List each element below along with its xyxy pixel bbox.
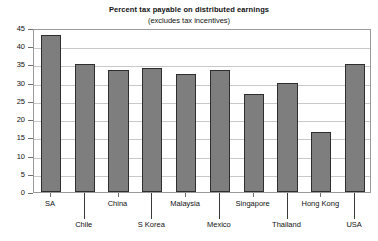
label-leader-line xyxy=(84,193,85,219)
y-axis: 454035302520151050 xyxy=(0,29,33,193)
page-title: Percent tax payable on distributed earni… xyxy=(0,4,378,15)
bar-chile xyxy=(75,64,95,192)
bar-malaysia xyxy=(176,74,196,192)
x-tick-label-thailand: Thailand xyxy=(272,220,301,229)
y-tick-label: 25 xyxy=(17,98,25,106)
bar-s-korea xyxy=(142,68,162,192)
bar-hong-kong xyxy=(311,132,331,192)
x-tick-label-usa: USA xyxy=(346,220,361,229)
y-tick-label: 20 xyxy=(17,116,25,124)
label-leader-line xyxy=(354,193,355,219)
x-tick-mark xyxy=(320,193,321,197)
y-tick-label: 45 xyxy=(17,25,25,33)
bar-singapore xyxy=(244,94,264,192)
bar-mexico xyxy=(210,70,230,192)
bar-china xyxy=(108,70,128,192)
bar-thailand xyxy=(277,83,297,192)
bar-sa xyxy=(41,35,61,192)
x-tick-label-hong-kong: Hong Kong xyxy=(302,199,340,208)
x-tick-label-mexico: Mexico xyxy=(207,220,231,229)
label-leader-line xyxy=(151,193,152,219)
x-axis: SAChileChinaS KoreaMalaysiaMexicoSingapo… xyxy=(33,193,371,241)
bar-chart: Percent tax payable on distributed earni… xyxy=(0,0,378,241)
x-tick-mark xyxy=(185,193,186,197)
plot-area xyxy=(33,29,371,193)
x-tick-label-singapore: Singapore xyxy=(236,199,270,208)
x-tick-label-sa: SA xyxy=(45,199,55,208)
y-tick-label: 40 xyxy=(17,43,25,51)
x-tick-mark xyxy=(118,193,119,197)
x-tick-label-chile: Chile xyxy=(75,220,92,229)
chart-title-block: Percent tax payable on distributed earni… xyxy=(0,4,378,26)
x-tick-label-s-korea: S Korea xyxy=(138,220,165,229)
y-tick-label: 15 xyxy=(17,134,25,142)
bar-usa xyxy=(345,64,365,192)
y-tick-label: 10 xyxy=(17,153,25,161)
y-tick-label: 30 xyxy=(17,80,25,88)
bars-layer xyxy=(34,30,370,192)
y-tick-label: 5 xyxy=(21,171,25,179)
chart-subtitle: (excludes tax incentives) xyxy=(0,15,378,26)
y-tick-label: 0 xyxy=(21,189,25,197)
y-tick-label: 35 xyxy=(17,61,25,69)
x-tick-label-malaysia: Malaysia xyxy=(170,199,200,208)
label-leader-line xyxy=(219,193,220,219)
x-tick-label-china: China xyxy=(108,199,128,208)
label-leader-line xyxy=(287,193,288,219)
x-tick-mark xyxy=(50,193,51,197)
x-tick-mark xyxy=(253,193,254,197)
